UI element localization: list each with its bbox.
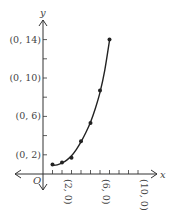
y-tick-label: (0, 2) xyxy=(15,149,41,160)
x-tick-labels: (2, 0)(6, 0)(10, 0) xyxy=(63,179,150,211)
data-point xyxy=(79,139,83,143)
y-tick-label: (0, 6) xyxy=(15,110,41,121)
y-tick-label: (0, 14) xyxy=(9,34,41,45)
x-axis-label: x xyxy=(160,169,166,180)
x-tick-label: (2, 0) xyxy=(63,179,74,205)
y-axis-label: y xyxy=(39,7,46,18)
data-point xyxy=(98,88,102,92)
data-point xyxy=(70,156,74,160)
axes xyxy=(15,20,157,190)
y-tick-label: (0, 10) xyxy=(9,72,41,83)
x-ticks xyxy=(53,170,139,174)
y-ticks xyxy=(43,40,47,155)
x-tick-label: (10, 0) xyxy=(139,179,150,211)
fitted-curve xyxy=(53,41,110,166)
x-tick-label: (6, 0) xyxy=(101,179,112,205)
data-point xyxy=(89,121,93,125)
scatter-chart: (2, 0)(6, 0)(10, 0) (0, 2)(0, 6)(0, 10)(… xyxy=(0,0,181,221)
y-tick-labels: (0, 2)(0, 6)(0, 10)(0, 14) xyxy=(9,34,41,160)
data-point xyxy=(51,162,55,166)
data-points xyxy=(51,38,112,167)
data-point xyxy=(108,38,112,42)
data-point xyxy=(60,160,64,164)
origin-label: O xyxy=(33,175,41,186)
